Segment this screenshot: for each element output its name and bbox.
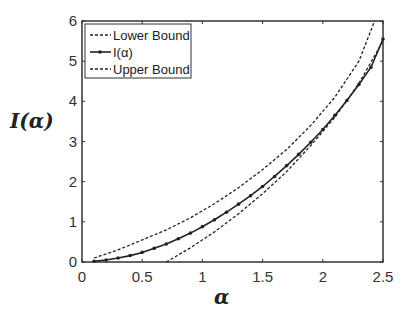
data-point — [189, 231, 193, 235]
data-point — [152, 247, 156, 251]
data-point — [128, 254, 132, 258]
y-tick-label: 3 — [69, 133, 77, 150]
x-tick-label: 0.5 — [132, 268, 153, 285]
y-tick-label: 6 — [69, 12, 77, 29]
data-point — [381, 37, 385, 41]
data-point — [213, 218, 217, 222]
legend-label-upper: Upper Bound — [113, 62, 190, 77]
data-point — [237, 202, 241, 206]
data-point — [140, 251, 144, 255]
data-point — [225, 210, 229, 214]
data-point — [104, 258, 108, 262]
legend: Lower Bound I(α) Upper Bound — [85, 24, 191, 78]
data-point — [273, 175, 277, 179]
data-point — [333, 114, 337, 118]
x-tick-label: 1.5 — [252, 268, 273, 285]
data-point — [357, 83, 361, 87]
chart: 00.511.522.50123456 Lower Bound I(α) Upp… — [0, 0, 415, 316]
data-point — [177, 237, 181, 241]
y-axis-label: I(α) — [9, 109, 54, 133]
data-point — [261, 185, 265, 189]
y-tick-label: 4 — [69, 92, 77, 109]
legend-label-i: I(α) — [113, 45, 133, 60]
data-point — [285, 164, 289, 168]
y-tick-label: 2 — [69, 173, 77, 190]
data-point — [369, 65, 373, 69]
legend-label-lower: Lower Bound — [113, 28, 190, 43]
x-tick-label: 2 — [319, 268, 327, 285]
data-point — [309, 141, 313, 145]
y-tick-label: 0 — [69, 253, 77, 270]
data-point — [249, 194, 253, 198]
y-tick-label: 1 — [69, 213, 77, 230]
data-point — [164, 242, 168, 246]
x-axis-label: α — [214, 285, 229, 309]
x-tick-label: 0 — [78, 268, 86, 285]
y-tick-label: 5 — [69, 52, 77, 69]
data-point — [297, 153, 301, 157]
x-tick-label: 2.5 — [373, 268, 394, 285]
data-point — [116, 256, 120, 260]
data-point — [345, 99, 349, 103]
data-point — [321, 128, 325, 132]
data-point — [201, 225, 205, 229]
x-tick-label: 1 — [198, 268, 206, 285]
data-point — [92, 259, 96, 263]
